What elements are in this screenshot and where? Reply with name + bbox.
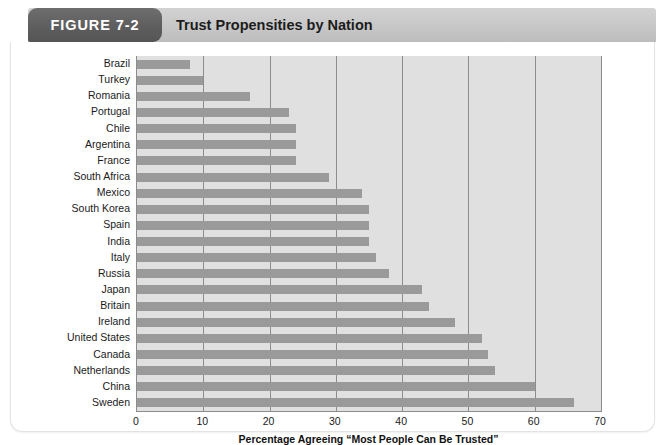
figure-title: Trust Propensities by Nation (176, 8, 373, 42)
bar (137, 60, 190, 69)
y-axis-label: Portugal (18, 106, 130, 117)
bar (137, 205, 369, 214)
x-axis-tick-label: 10 (196, 415, 208, 427)
y-axis-label: Italy (18, 252, 130, 263)
y-axis-label: Britain (18, 300, 130, 311)
figure-number-label: FIGURE 7-2 (51, 17, 140, 33)
y-axis-label: Spain (18, 219, 130, 230)
bar (137, 156, 296, 165)
bar (137, 285, 422, 294)
y-axis-label: South Korea (18, 203, 130, 214)
bar (137, 189, 362, 198)
y-axis-label: Ireland (18, 316, 130, 327)
x-axis-tick-label: 60 (528, 415, 540, 427)
bar (137, 350, 488, 359)
y-axis-label: Canada (18, 349, 130, 360)
bar (137, 221, 369, 230)
bar (137, 173, 329, 182)
figure-container: FIGURE 7-2 Trust Propensities by Nation … (0, 0, 665, 445)
y-axis-label: Russia (18, 268, 130, 279)
bar (137, 76, 203, 85)
y-axis-label: Netherlands (18, 365, 130, 376)
gridline (535, 56, 536, 411)
y-axis-label: Turkey (18, 74, 130, 85)
bar (137, 92, 250, 101)
y-axis-label: Sweden (18, 397, 130, 408)
y-axis-label: South Africa (18, 171, 130, 182)
bar (137, 318, 455, 327)
y-axis-label: United States (18, 332, 130, 343)
y-axis-label: France (18, 155, 130, 166)
x-axis-tick-label: 0 (133, 415, 139, 427)
x-axis-tick-label: 70 (594, 415, 606, 427)
bar (137, 366, 495, 375)
x-axis-line (136, 411, 601, 412)
bar (137, 269, 389, 278)
y-axis-label: Brazil (18, 58, 130, 69)
y-axis-label: Mexico (18, 187, 130, 198)
y-axis-label: Japan (18, 284, 130, 295)
y-axis-label: Argentina (18, 139, 130, 150)
y-axis-label: Chile (18, 123, 130, 134)
bar (137, 302, 429, 311)
x-axis-tick-label: 20 (263, 415, 275, 427)
figure-number-tab: FIGURE 7-2 (28, 8, 162, 42)
bar (137, 108, 289, 117)
bar (137, 334, 482, 343)
x-axis-tick-label: 40 (395, 415, 407, 427)
y-axis-label: Romania (18, 90, 130, 101)
bar (137, 140, 296, 149)
bar (137, 237, 369, 246)
bar (137, 124, 296, 133)
y-axis-labels: BrazilTurkeyRomaniaPortugalChileArgentin… (18, 56, 130, 411)
bar (137, 382, 535, 391)
x-axis-ticks: 010203040506070 (0, 415, 665, 431)
x-axis-tick-label: 50 (462, 415, 474, 427)
bar (137, 398, 574, 407)
bar (137, 253, 376, 262)
y-axis-label: India (18, 236, 130, 247)
x-axis-title: Percentage Agreeing “Most People Can Be … (136, 433, 601, 445)
plot-area (136, 56, 602, 412)
x-axis-tick-label: 30 (329, 415, 341, 427)
bar-chart: BrazilTurkeyRomaniaPortugalChileArgentin… (0, 42, 665, 432)
y-axis-label: China (18, 381, 130, 392)
